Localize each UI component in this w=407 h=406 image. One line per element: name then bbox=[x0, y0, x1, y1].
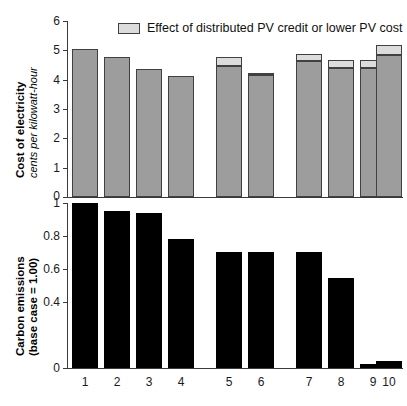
carbon-ytick-label-0: 0 bbox=[34, 362, 60, 374]
cost-bar-10-credit bbox=[376, 45, 402, 55]
cost-ytick-label-1: 1 bbox=[40, 162, 60, 174]
carbon-ytick-label-04: 0.4 bbox=[28, 296, 60, 308]
carbon-ytick-label-06: 0.6 bbox=[28, 263, 60, 275]
carbon-ytick-08 bbox=[63, 236, 67, 237]
cost-ytick-label-5: 5 bbox=[40, 44, 60, 56]
cost-bar-5-credit bbox=[216, 57, 242, 65]
cost-ytick-5 bbox=[63, 50, 67, 51]
carbon-ytick-label-08: 0.8 bbox=[28, 230, 60, 242]
carbon-bar-8 bbox=[328, 278, 354, 368]
cost-ytick-3 bbox=[63, 109, 67, 110]
carbon-bar-6 bbox=[248, 252, 274, 368]
cost-ytick-label-3: 3 bbox=[40, 103, 60, 115]
carbon-x-axis-line bbox=[67, 368, 403, 369]
carbon-ytick-0 bbox=[63, 368, 67, 369]
cost-bar-6 bbox=[248, 75, 274, 197]
cost-ytick-label-4: 4 bbox=[40, 74, 60, 86]
carbon-y-axis-line bbox=[67, 203, 68, 369]
carbon-ytick-04 bbox=[63, 302, 67, 303]
cost-y-axis-title: Cost of electricity cents per kilowatt-h… bbox=[14, 67, 39, 178]
cost-ytick-4 bbox=[63, 80, 67, 81]
cost-bar-7-credit bbox=[296, 54, 322, 61]
cost-y-axis-line bbox=[67, 21, 68, 198]
carbon-xtick-label-4: 4 bbox=[169, 376, 193, 388]
carbon-ytick-1 bbox=[63, 203, 67, 204]
cost-bar-5 bbox=[216, 66, 242, 197]
carbon-xtick-label-3: 3 bbox=[137, 376, 161, 388]
cost-ytick-2 bbox=[63, 138, 67, 139]
legend-label: Effect of distributed PV credit or lower… bbox=[147, 22, 402, 35]
carbon-emissions-chart: Carbon emissions (base case = 1.00) 1 0.… bbox=[0, 196, 407, 406]
cost-bar-10 bbox=[376, 55, 402, 197]
carbon-bar-2 bbox=[104, 211, 130, 368]
cost-bar-6-credit bbox=[248, 73, 274, 76]
carbon-bar-10 bbox=[376, 361, 402, 368]
cost-ytick-6 bbox=[63, 21, 67, 22]
cost-bar-4 bbox=[168, 76, 194, 197]
cost-bar-7 bbox=[296, 61, 322, 197]
cost-ytick-label-2: 2 bbox=[40, 132, 60, 144]
carbon-xtick-label-6: 6 bbox=[249, 376, 273, 388]
cost-of-electricity-chart: Cost of electricity cents per kilowatt-h… bbox=[0, 0, 407, 200]
carbon-xtick-label-10: 10 bbox=[377, 376, 401, 388]
cost-bar-8 bbox=[328, 68, 354, 197]
carbon-xtick-label-8: 8 bbox=[329, 376, 353, 388]
carbon-ytick-label-1: 1 bbox=[34, 197, 60, 209]
cost-bar-1 bbox=[72, 49, 98, 197]
cost-bar-2 bbox=[104, 57, 130, 197]
legend: Effect of distributed PV credit or lower… bbox=[118, 22, 402, 35]
cost-ytick-1 bbox=[63, 168, 67, 169]
carbon-bar-3 bbox=[136, 213, 162, 368]
carbon-xtick-label-5: 5 bbox=[217, 376, 241, 388]
carbon-xtick-label-1: 1 bbox=[73, 376, 97, 388]
cost-y-axis-title-sub: cents per kilowatt-hour bbox=[27, 67, 39, 178]
cost-ytick-label-6: 6 bbox=[40, 15, 60, 27]
carbon-xtick-label-7: 7 bbox=[297, 376, 321, 388]
cost-y-axis-title-main: Cost of electricity bbox=[14, 67, 27, 178]
carbon-bar-1 bbox=[72, 203, 98, 368]
cost-bar-8-credit bbox=[328, 60, 354, 68]
carbon-bar-7 bbox=[296, 252, 322, 368]
cost-bar-3 bbox=[136, 69, 162, 197]
figure: Cost of electricity cents per kilowatt-h… bbox=[0, 0, 407, 406]
carbon-ytick-06 bbox=[63, 269, 67, 270]
legend-swatch-icon bbox=[118, 23, 140, 34]
carbon-bar-5 bbox=[216, 252, 242, 368]
carbon-bar-4 bbox=[168, 239, 194, 369]
carbon-xtick-label-2: 2 bbox=[105, 376, 129, 388]
carbon-y-axis-title-main: Carbon emissions bbox=[14, 256, 27, 356]
